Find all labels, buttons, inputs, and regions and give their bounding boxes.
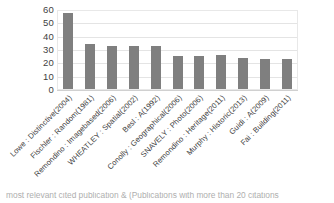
y-axis-tick-label: 10 [43, 72, 54, 82]
y-axis-tick-label: 30 [43, 45, 54, 55]
bar [238, 58, 248, 89]
bar [85, 44, 95, 89]
x-axis-labels: Lowe : Distinctive(2004)Fischler : Rando… [57, 94, 298, 194]
plot-area [57, 10, 298, 90]
figure-bar-chart: 0102030405060 Lowe : Distinctive(2004)Fi… [0, 0, 334, 203]
bar [282, 59, 292, 89]
bar [260, 59, 270, 89]
y-axis-tick-label: 0 [49, 85, 54, 95]
y-axis-tick-label: 40 [43, 32, 54, 42]
bar [173, 56, 183, 89]
bar [129, 46, 139, 89]
bar [216, 55, 226, 89]
figure-caption: most relevant cited publication & (Publi… [0, 192, 334, 203]
y-axis-tick-label: 50 [43, 18, 54, 28]
y-axis-tick-label: 60 [43, 5, 54, 15]
chart-area: 0102030405060 Lowe : Distinctive(2004)Fi… [0, 6, 334, 102]
figure-caption-text: most relevant cited publication & (Publi… [6, 192, 330, 201]
axis-baseline [57, 90, 298, 91]
bar [107, 46, 117, 89]
bar [151, 46, 161, 89]
bar [194, 56, 204, 89]
bar-series [57, 10, 298, 89]
y-axis-tick-label: 20 [43, 58, 54, 68]
bar [63, 13, 73, 89]
y-axis: 0102030405060 [28, 6, 56, 94]
